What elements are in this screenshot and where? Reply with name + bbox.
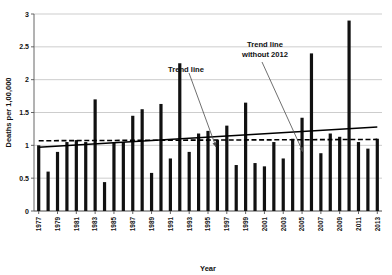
bar-2011 bbox=[357, 142, 360, 211]
xtick-label-1997: 1997 bbox=[223, 217, 230, 232]
bar-1985 bbox=[112, 142, 115, 211]
xtick-label-1989: 1989 bbox=[148, 217, 155, 232]
bar-1990 bbox=[159, 104, 162, 211]
bar-1983 bbox=[94, 99, 97, 211]
xtick-label-2003: 2003 bbox=[280, 217, 287, 232]
xtick-label-1995: 1995 bbox=[204, 217, 211, 232]
bar-1980 bbox=[65, 142, 68, 211]
bar-2007 bbox=[319, 153, 322, 211]
bar-2006 bbox=[310, 53, 313, 211]
xtick-label-2005: 2005 bbox=[298, 217, 305, 232]
bar-2009 bbox=[338, 137, 341, 211]
xtick-label-1985: 1985 bbox=[110, 217, 117, 232]
ytick-label-2: 2 bbox=[25, 76, 29, 83]
bar-1981 bbox=[75, 140, 78, 211]
xtick-label-1977: 1977 bbox=[35, 217, 42, 232]
bar-1998 bbox=[235, 165, 238, 211]
bar-2003 bbox=[282, 158, 285, 211]
bar-1986 bbox=[122, 142, 125, 211]
ytick-label-0: 0 bbox=[25, 208, 29, 215]
bar-1984 bbox=[103, 182, 106, 211]
xtick-label-1981: 1981 bbox=[73, 217, 80, 232]
xtick-label-1999: 1999 bbox=[242, 217, 249, 232]
bar-1977 bbox=[37, 145, 40, 211]
bar-1992 bbox=[178, 63, 181, 211]
xtick-label-1987: 1987 bbox=[129, 217, 136, 232]
bar-1997 bbox=[225, 126, 228, 211]
bar-2010 bbox=[347, 21, 350, 211]
bar-1989 bbox=[150, 173, 153, 211]
xtick-label-2007: 2007 bbox=[317, 217, 324, 232]
bar-1999 bbox=[244, 103, 247, 211]
xtick-label-2009: 2009 bbox=[336, 217, 343, 232]
xtick-label-1991: 1991 bbox=[167, 217, 174, 232]
bar-1979 bbox=[56, 152, 59, 211]
ytick-label-0.5: 0.5 bbox=[19, 175, 29, 182]
bar-1987 bbox=[131, 116, 134, 211]
chart-container: 00.511.522.53197719791981198319851987198… bbox=[0, 0, 392, 275]
bar-1988 bbox=[141, 109, 144, 211]
xtick-label-1993: 1993 bbox=[185, 217, 192, 232]
bar-2000 bbox=[253, 163, 256, 211]
xtick-label-2011: 2011 bbox=[355, 217, 362, 231]
bar-1982 bbox=[84, 142, 87, 211]
bar-chart: 00.511.522.53197719791981198319851987198… bbox=[0, 0, 392, 275]
xtick-label-1983: 1983 bbox=[91, 217, 98, 232]
bar-1994 bbox=[197, 134, 200, 211]
bar-2004 bbox=[291, 139, 294, 211]
bar-2012 bbox=[366, 149, 369, 211]
ytick-label-1.5: 1.5 bbox=[19, 109, 29, 116]
ytick-label-2.5: 2.5 bbox=[19, 43, 29, 50]
bar-1993 bbox=[188, 152, 191, 211]
ytick-label-1: 1 bbox=[25, 142, 29, 149]
bar-2008 bbox=[329, 134, 332, 211]
bar-2001 bbox=[263, 166, 266, 211]
xtick-label-2001: 2001 bbox=[261, 217, 268, 232]
xtick-label-2013: 2013 bbox=[374, 217, 381, 232]
bar-2002 bbox=[272, 142, 275, 211]
bar-1978 bbox=[47, 172, 50, 211]
bar-1996 bbox=[216, 140, 219, 211]
annotation-trend-line-label: Trend line bbox=[168, 65, 204, 74]
x-axis-title: Year bbox=[200, 264, 216, 273]
bar-1991 bbox=[169, 158, 172, 211]
bar-2013 bbox=[376, 139, 379, 211]
bar-1995 bbox=[206, 131, 209, 211]
xtick-label-1979: 1979 bbox=[54, 217, 61, 232]
y-axis-title: Deaths per 1,00,000 bbox=[4, 77, 13, 147]
ytick-label-3: 3 bbox=[25, 11, 29, 18]
annotation-trend-line-no-2012-label: Trend linewithout 2012 bbox=[241, 40, 288, 59]
